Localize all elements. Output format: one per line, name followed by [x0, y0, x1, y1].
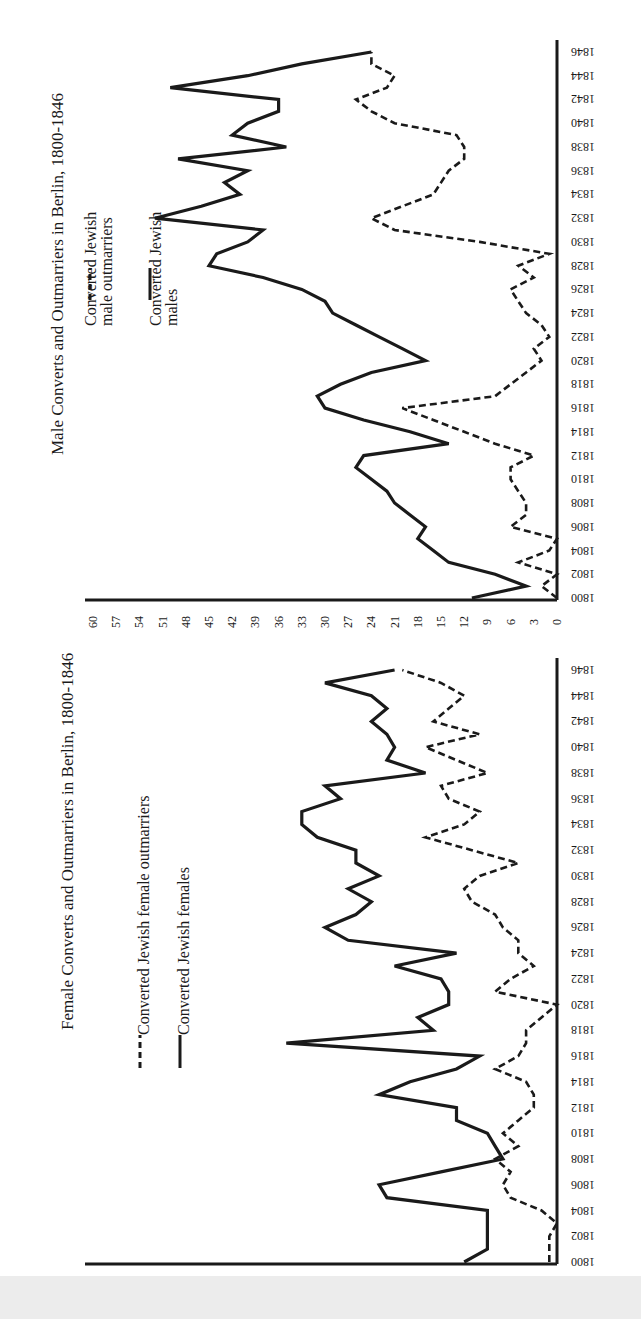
year-tick-label: 1834 [571, 817, 595, 831]
year-tick-label: 1816 [571, 1049, 595, 1063]
male-chart-panel: 1800180218041806180818101812181418161818… [0, 0, 641, 640]
year-tick-label: 1844 [571, 69, 595, 83]
year-tick-label: 1822 [571, 972, 595, 986]
year-tick-label: 1844 [571, 689, 595, 703]
value-tick-label: 60 [86, 616, 100, 628]
year-tick-label: 1846 [571, 663, 595, 677]
value-tick-label: 24 [364, 616, 378, 628]
year-tick-label: 1816 [571, 401, 595, 415]
legend-label-female-outmarriers: Converted Jewish female outmarriers [135, 796, 152, 1035]
year-tick-label: 1836 [571, 164, 595, 178]
year-tick-label: 1840 [571, 116, 595, 130]
value-tick-label: 21 [388, 616, 402, 628]
year-tick-label: 1806 [571, 1178, 595, 1192]
legend-label-female-converts: Converted Jewish females [175, 867, 192, 1035]
year-tick-label: 1838 [571, 140, 595, 154]
value-tick-label: 30 [318, 616, 332, 628]
legend-label-male-converts-1: Converted Jewish [147, 212, 164, 326]
year-tick-label: 1808 [571, 1152, 595, 1166]
value-tick-label: 42 [225, 616, 239, 628]
scan-bottom-strip [0, 1276, 641, 1319]
legend-label-male-outmarriers-1: Converted Jewish [82, 212, 99, 326]
year-tick-label: 1812 [571, 1101, 595, 1115]
value-tick-label: 9 [480, 619, 494, 625]
year-tick-label: 1804 [571, 1204, 595, 1218]
legend-label-male-outmarriers-2: male outmarriers [98, 217, 115, 326]
year-tick-label: 1842 [571, 92, 595, 106]
value-tick-label: 33 [295, 616, 309, 628]
converts-series-line [286, 670, 503, 1262]
value-tick-label: 0 [550, 619, 564, 625]
value-tick-label: 57 [109, 616, 123, 628]
value-tick-label: 15 [434, 616, 448, 628]
male-chart-title: Male Converts and Outmarriers in Berlin,… [48, 93, 68, 455]
value-tick-label: 18 [411, 616, 425, 628]
year-tick-label: 1842 [571, 714, 595, 728]
year-tick-label: 1832 [571, 211, 595, 225]
year-tick-label: 1846 [571, 45, 595, 59]
year-tick-label: 1802 [571, 567, 595, 581]
year-tick-label: 1828 [571, 895, 595, 909]
year-tick-label: 1820 [571, 998, 595, 1012]
value-tick-label: 12 [457, 616, 471, 628]
year-tick-label: 1838 [571, 766, 595, 780]
year-tick-label: 1818 [571, 377, 595, 391]
outmarriers-series-line [402, 670, 557, 1262]
value-tick-label: 36 [272, 616, 286, 628]
value-tick-label: 45 [202, 616, 216, 628]
year-tick-label: 1830 [571, 869, 595, 883]
year-tick-label: 1814 [571, 425, 595, 439]
converts-series-line [155, 52, 526, 598]
year-tick-label: 1800 [571, 591, 595, 605]
female-chart-title: Female Converts and Outmarriers in Berli… [58, 653, 78, 1030]
year-tick-label: 1808 [571, 496, 595, 510]
female-chart-panel: 1800180218041806180818101812181418161818… [0, 640, 641, 1276]
year-tick-label: 1804 [571, 544, 595, 558]
value-tick-label: 39 [248, 616, 262, 628]
year-tick-label: 1806 [571, 520, 595, 534]
value-tick-label: 54 [132, 616, 146, 628]
year-tick-label: 1814 [571, 1075, 595, 1089]
year-tick-label: 1840 [571, 740, 595, 754]
legend-label-male-converts-2: males [163, 289, 180, 326]
value-tick-label: 6 [504, 619, 518, 625]
value-tick-label: 27 [341, 616, 355, 628]
year-tick-label: 1810 [571, 1126, 595, 1140]
year-tick-label: 1802 [571, 1229, 595, 1243]
outmarriers-series-line [356, 52, 557, 598]
year-tick-label: 1826 [571, 282, 595, 296]
year-tick-label: 1824 [571, 946, 595, 960]
value-tick-label: 48 [179, 616, 193, 628]
year-tick-label: 1812 [571, 449, 595, 463]
year-tick-label: 1826 [571, 920, 595, 934]
year-tick-label: 1824 [571, 306, 595, 320]
value-tick-label: 51 [156, 616, 170, 628]
year-tick-label: 1818 [571, 1023, 595, 1037]
year-tick-label: 1810 [571, 472, 595, 486]
year-tick-label: 1832 [571, 843, 595, 857]
year-tick-label: 1834 [571, 187, 595, 201]
value-tick-label: 3 [527, 619, 541, 625]
year-tick-label: 1828 [571, 259, 595, 273]
year-tick-label: 1836 [571, 792, 595, 806]
female-line-chart: 1800180218041806180818101812181418161818… [0, 640, 641, 1276]
year-tick-label: 1820 [571, 354, 595, 368]
year-tick-label: 1800 [571, 1255, 595, 1269]
year-tick-label: 1830 [571, 235, 595, 249]
year-tick-label: 1822 [571, 330, 595, 344]
